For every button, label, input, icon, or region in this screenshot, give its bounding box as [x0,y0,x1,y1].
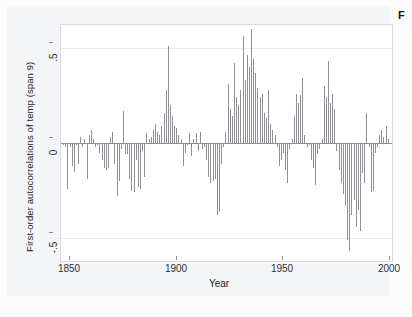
bar [228,84,229,143]
bar [72,143,73,166]
x-tick-mark [389,256,390,260]
bar [275,135,276,143]
bar [161,126,162,143]
bar [360,143,361,231]
bar [251,29,252,143]
bar [289,143,290,149]
bar [309,143,310,145]
bar [108,143,109,168]
bar [210,143,211,183]
x-axis: Year 1850190019502000 [0,256,412,317]
bar [198,143,199,151]
bar [225,132,226,143]
bar [285,143,286,170]
bar [131,143,132,191]
bar [319,143,320,149]
y-axis-title: First-order autocorrelations of temp (sp… [24,62,35,252]
bar [294,116,295,143]
bar [266,118,267,143]
bar [121,143,122,149]
bar [191,143,192,156]
bar [196,133,197,143]
bar [99,143,100,153]
bar [245,80,246,143]
bar [87,143,88,179]
bar [208,143,209,177]
bar [349,143,350,251]
x-tick-label: 1950 [271,263,293,274]
bar [257,88,258,143]
bar [138,143,139,187]
bar [89,135,90,143]
bar [345,143,346,206]
bar [277,143,278,147]
bar [104,143,105,168]
bar [364,143,365,183]
bar [243,36,244,143]
bar [84,139,85,143]
bar [153,130,154,143]
bar [292,139,293,143]
bar [311,143,312,160]
bar [114,143,115,164]
bar [313,143,314,168]
bar [213,143,214,181]
bar [172,116,173,143]
x-axis-title: Year [209,278,229,289]
bar [255,73,256,143]
bar [238,105,239,143]
bar [279,143,280,166]
bar [204,143,205,147]
bar [315,143,316,185]
bar [300,95,301,143]
bar [334,109,335,143]
bar [232,116,233,143]
x-tick-mark [69,256,70,260]
bar [247,55,248,143]
bar [76,143,77,145]
bar [80,137,81,143]
bar [317,143,318,154]
bar [262,94,263,143]
bar [178,135,179,143]
bar [74,143,75,172]
bar [379,135,380,143]
bar [189,133,190,143]
bar [95,143,96,147]
bar [183,143,184,166]
bar [343,143,344,194]
bar [176,128,177,143]
bar [362,143,363,173]
bar [151,137,152,143]
bar [159,135,160,143]
bar [144,143,145,177]
bar [78,143,79,164]
bar [296,94,297,143]
bar [106,143,107,170]
bar [117,143,118,196]
bar [236,97,237,143]
bar [386,126,387,143]
bar [351,143,352,215]
y-tick-label: .5 [48,41,59,75]
bar [388,139,389,143]
bar [298,103,299,143]
bar [202,143,203,149]
bar [330,103,331,143]
bar [200,132,201,143]
bar [358,143,359,210]
bar [166,90,167,143]
bar [260,97,261,143]
gridline-y [61,48,392,49]
x-tick-label: 2000 [378,263,400,274]
bar [149,139,150,143]
x-tick-label: 1900 [165,263,187,274]
bar [142,143,143,151]
bar [341,143,342,183]
bar [217,143,218,215]
bar [206,143,207,160]
bar [140,143,141,189]
bar [193,139,194,143]
bar [223,143,224,147]
bar [324,86,325,143]
